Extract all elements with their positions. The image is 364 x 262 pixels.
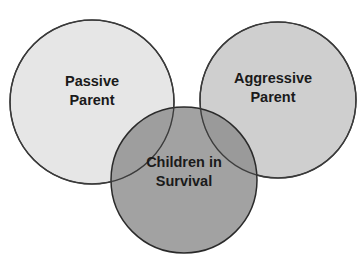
- passive-parent-label-line1: Passive: [65, 73, 119, 89]
- children-label-line1: Children in: [146, 154, 222, 170]
- aggressive-parent-label-line2: Parent: [250, 89, 295, 105]
- passive-parent-label-line2: Parent: [69, 92, 114, 108]
- children-label-line2: Survival: [156, 173, 212, 189]
- aggressive-parent-label-line1: Aggressive: [234, 70, 312, 86]
- venn-diagram: Passive Parent Aggressive Parent Childre…: [0, 0, 364, 262]
